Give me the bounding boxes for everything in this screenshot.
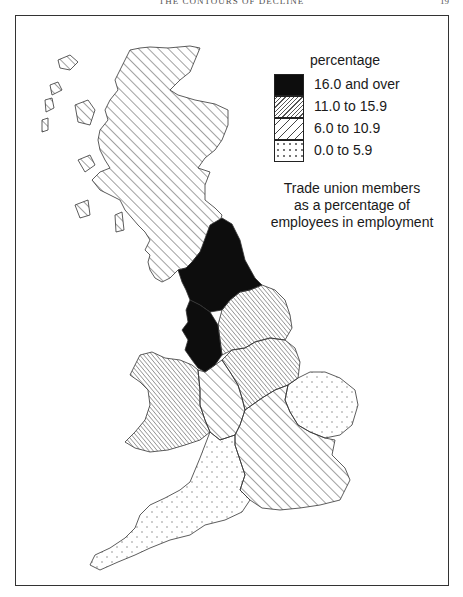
- region-south-west: [90, 432, 250, 570]
- legend-label: 16.0 and over: [314, 76, 400, 92]
- legend-swatch-dense-hatch: [274, 96, 304, 118]
- legend-label: 11.0 to 15.9: [314, 98, 387, 114]
- legend-item-16-and-over: 16.0 and over: [274, 74, 434, 96]
- legend-item-11-to-15-9: 11.0 to 15.9: [274, 96, 434, 118]
- region-scotland-isle: [45, 98, 54, 112]
- caption-line: employees in employment: [252, 214, 452, 231]
- legend-item-6-to-10-9: 6.0 to 10.9: [274, 118, 434, 140]
- legend-heading: percentage: [310, 52, 380, 68]
- region-scotland-isle: [75, 100, 95, 125]
- legend-label: 6.0 to 10.9: [314, 120, 380, 136]
- region-scotland-isle: [58, 55, 78, 70]
- region-scotland-isle: [115, 212, 124, 232]
- legend-label: 0.0 to 5.9: [314, 142, 372, 158]
- legend-swatch-sparse-hatch: [274, 118, 304, 140]
- region-scotland-isle: [42, 118, 48, 132]
- legend-item-0-to-5-9: 0.0 to 5.9: [274, 140, 434, 162]
- caption-line: Trade union members: [252, 180, 452, 197]
- region-scotland-isle: [75, 200, 90, 218]
- region-scotland-isle: [50, 82, 62, 95]
- legend-swatch-solid: [274, 74, 304, 96]
- caption-line: as a percentage of: [252, 197, 452, 214]
- map-caption: Trade union members as a percentage of e…: [252, 180, 452, 231]
- legend-swatch-dots: [274, 140, 304, 162]
- region-scotland-isle: [78, 155, 95, 172]
